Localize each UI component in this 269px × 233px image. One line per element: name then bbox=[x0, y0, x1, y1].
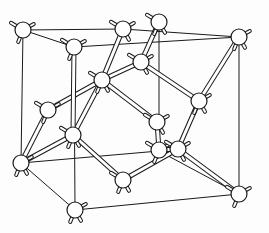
atom bbox=[231, 29, 250, 49]
crystal-diagram: Diamond cubic crystal structure bbox=[0, 0, 269, 233]
cube-edge bbox=[21, 163, 75, 210]
atom bbox=[67, 202, 86, 222]
atom bbox=[90, 72, 110, 92]
cube-edge bbox=[74, 37, 239, 47]
bond bbox=[199, 37, 239, 101]
atom bbox=[111, 172, 131, 192]
bond bbox=[141, 62, 199, 101]
atom bbox=[13, 155, 32, 175]
cube-edge bbox=[23, 29, 123, 30]
atom bbox=[111, 21, 134, 40]
cube-edge bbox=[123, 29, 239, 37]
atom bbox=[36, 102, 59, 122]
atoms bbox=[11, 14, 250, 222]
diamond-lattice-drawing bbox=[0, 0, 269, 233]
cube-edge bbox=[75, 194, 239, 210]
atom bbox=[227, 186, 250, 206]
atom bbox=[145, 114, 168, 133]
bond bbox=[73, 47, 74, 135]
atom bbox=[191, 93, 210, 113]
atom bbox=[61, 127, 81, 147]
cube-edge bbox=[21, 30, 23, 163]
